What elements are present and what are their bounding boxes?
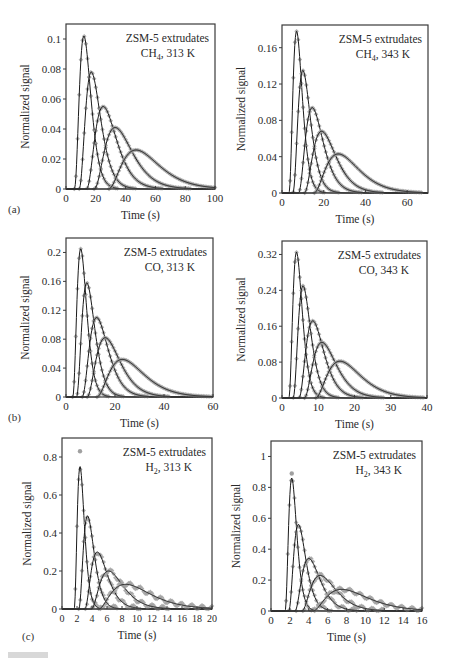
series-5 xyxy=(66,357,214,399)
y-axis-label: Normalized signal xyxy=(235,277,248,362)
series-2 xyxy=(282,68,428,195)
x-tick-label: 60 xyxy=(402,196,414,208)
x-axis-label: Time (s) xyxy=(327,631,366,644)
x-tick-label: 20 xyxy=(318,196,330,208)
experimental-markers xyxy=(288,29,327,195)
y-tick-label: 0.32 xyxy=(258,248,277,260)
panel-label-c: (c) xyxy=(22,630,34,642)
annotation-title: ZSM-5 extrudates xyxy=(339,33,423,45)
x-tick-label: 0 xyxy=(63,192,69,204)
model-fit-line xyxy=(282,70,428,193)
y-axis-label: Normalized signal xyxy=(19,64,32,149)
y-tick-label: 0.6 xyxy=(43,489,57,501)
series-2 xyxy=(282,284,427,401)
x-tick-label: 4 xyxy=(90,613,95,624)
annotation-gas-temp: CO, 343 K xyxy=(359,264,410,277)
y-tick-label: 0.8 xyxy=(43,451,57,463)
annotation: ZSM-5 extrudatesCO, 343 K xyxy=(338,249,422,277)
y-axis: 00.080.160.240.32 xyxy=(258,248,282,404)
experimental-markers xyxy=(83,552,143,611)
x-tick-label: 0 xyxy=(60,613,65,624)
model-fit-line xyxy=(62,516,212,609)
y-tick-label: 0.1 xyxy=(47,33,61,45)
y-tick-label: 0.16 xyxy=(258,320,278,332)
panel-label-a: (a) xyxy=(8,203,20,215)
y-tick-label: 0.2 xyxy=(252,574,266,586)
x-tick-label: 8 xyxy=(344,614,350,626)
y-tick-label: 0.4 xyxy=(43,527,57,539)
x-tick-label: 60 xyxy=(150,192,162,204)
y-axis-label: Normalized signal xyxy=(235,67,248,152)
annotation-gas-temp: CH4, 313 K xyxy=(141,47,196,62)
y-axis-label: Normalized signal xyxy=(21,481,34,566)
x-tick-label: 10 xyxy=(313,401,325,413)
annotation: ZSM-5 extrudatesH2, 313 K xyxy=(123,446,207,476)
y-tick-label: 0.06 xyxy=(42,93,62,105)
y-axis-label: Normalized signal xyxy=(230,484,243,569)
chart-panel-b-right: 01020304000.080.160.240.32Time (s)Normal… xyxy=(282,241,427,398)
x-tick-label: 10 xyxy=(132,613,142,624)
experimental-markers xyxy=(294,556,359,613)
annotation-title: ZSM-5 extrudates xyxy=(126,32,210,44)
x-tick-label: 12 xyxy=(147,613,157,624)
y-tick-label: 0.24 xyxy=(258,284,278,296)
outlier-marker xyxy=(290,471,294,475)
y-tick-label: 0.12 xyxy=(42,304,61,316)
y-axis: 00.20.40.60.81 xyxy=(252,450,271,617)
y-tick-label: 0 xyxy=(261,605,267,617)
outlier-marker xyxy=(78,449,82,453)
x-tick-label: 2 xyxy=(287,614,293,626)
x-tick-label: 0 xyxy=(268,614,274,626)
annotation-title: ZSM-5 extrudates xyxy=(124,246,208,258)
x-tick-label: 6 xyxy=(325,614,331,626)
x-tick-label: 6 xyxy=(105,613,110,624)
annotation-gas-temp: H2, 313 K xyxy=(146,461,193,476)
y-tick-label: 0.04 xyxy=(258,151,278,163)
y-tick-label: 0.6 xyxy=(252,512,266,524)
chart-panel-a-left: 02040608010000.020.040.060.080.1Time (s)… xyxy=(66,24,215,189)
y-tick-label: 0.8 xyxy=(252,481,266,493)
y-tick-label: 0 xyxy=(56,391,62,403)
model-fit-line xyxy=(66,128,215,190)
figure-caption-fragment xyxy=(8,652,48,658)
y-tick-label: 0 xyxy=(56,183,62,195)
y-tick-label: 0.04 xyxy=(42,362,62,374)
experimental-markers xyxy=(72,34,120,191)
annotation-title: ZSM-5 extrudates xyxy=(123,446,207,458)
chart-panel-a-right: 020406000.040.080.120.16Time (s)Normaliz… xyxy=(282,25,428,193)
x-tick-label: 18 xyxy=(192,613,202,624)
series-5 xyxy=(62,580,214,611)
x-tick-label: 100 xyxy=(207,192,224,204)
series-3 xyxy=(66,104,215,190)
x-tick-label: 80 xyxy=(180,192,192,204)
x-tick-label: 40 xyxy=(360,196,372,208)
x-tick-label: 60 xyxy=(208,400,220,412)
y-tick-label: 0.08 xyxy=(258,356,278,368)
y-tick-label: 0.2 xyxy=(43,565,57,577)
y-tick-label: 0.08 xyxy=(42,63,62,75)
x-tick-label: 20 xyxy=(110,400,122,412)
annotation: ZSM-5 extrudatesH2, 343 K xyxy=(333,449,417,479)
annotation-gas-temp: H2, 343 K xyxy=(356,464,403,479)
chart-panel-c-left: 0246810121416182000.20.40.60.8Time (s)No… xyxy=(62,438,212,609)
y-tick-label: 0.4 xyxy=(252,543,266,555)
series-3 xyxy=(271,556,422,613)
y-tick-label: 0.04 xyxy=(42,123,62,135)
x-tick-label: 40 xyxy=(120,192,132,204)
x-tick-label: 40 xyxy=(422,401,434,413)
x-tick-label: 8 xyxy=(120,613,125,624)
x-tick-label: 16 xyxy=(417,614,429,626)
x-tick-label: 14 xyxy=(398,614,410,626)
x-tick-label: 20 xyxy=(207,613,217,624)
x-tick-label: 20 xyxy=(349,401,361,413)
x-tick-label: 10 xyxy=(360,614,372,626)
annotation-gas-temp: CH4, 343 K xyxy=(356,48,411,63)
annotation-title: ZSM-5 extrudates xyxy=(333,449,417,461)
x-axis-label: Time (s) xyxy=(118,629,157,642)
x-tick-label: 4 xyxy=(306,614,312,626)
y-tick-label: 0.08 xyxy=(258,114,278,126)
y-tick-label: 0.12 xyxy=(258,78,277,90)
y-tick-label: 0 xyxy=(272,392,278,404)
series-2 xyxy=(66,281,213,399)
model-fit-line xyxy=(282,154,428,193)
